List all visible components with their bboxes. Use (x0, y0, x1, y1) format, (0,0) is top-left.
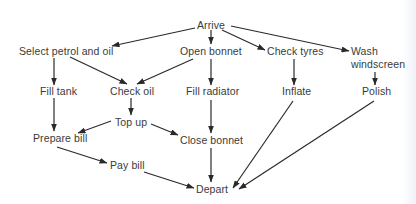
node-checkoil: Check oil (110, 85, 154, 98)
node-prepare: Prepare bill (33, 132, 87, 145)
node-tyres: Check tyres (267, 45, 324, 58)
arrow-open-to-checkoil (137, 59, 193, 84)
node-wash: Wash windscreen (351, 45, 405, 71)
node-pay: Pay bill (110, 159, 145, 172)
node-open: Open bonnet (180, 45, 242, 58)
node-inflate: Inflate (282, 85, 311, 98)
arrow-select-to-checkoil (70, 57, 127, 84)
node-select: Select petrol and oil (19, 45, 113, 58)
arrow-polish-to-depart (239, 101, 374, 189)
node-topup: Top up (115, 116, 147, 129)
arrow-prepare-to-pay (57, 147, 107, 163)
arrow-topup-to-close (151, 124, 178, 135)
node-filltank: Fill tank (40, 85, 77, 98)
node-polish: Polish (362, 85, 391, 98)
node-fillrad: Fill radiator (186, 85, 239, 98)
node-depart: Depart (196, 183, 228, 196)
arrow-pay-to-depart (144, 172, 194, 188)
node-arrive: Arrive (197, 19, 225, 32)
arrow-arrive-to-select (112, 28, 195, 46)
node-close: Close bonnet (180, 134, 243, 147)
